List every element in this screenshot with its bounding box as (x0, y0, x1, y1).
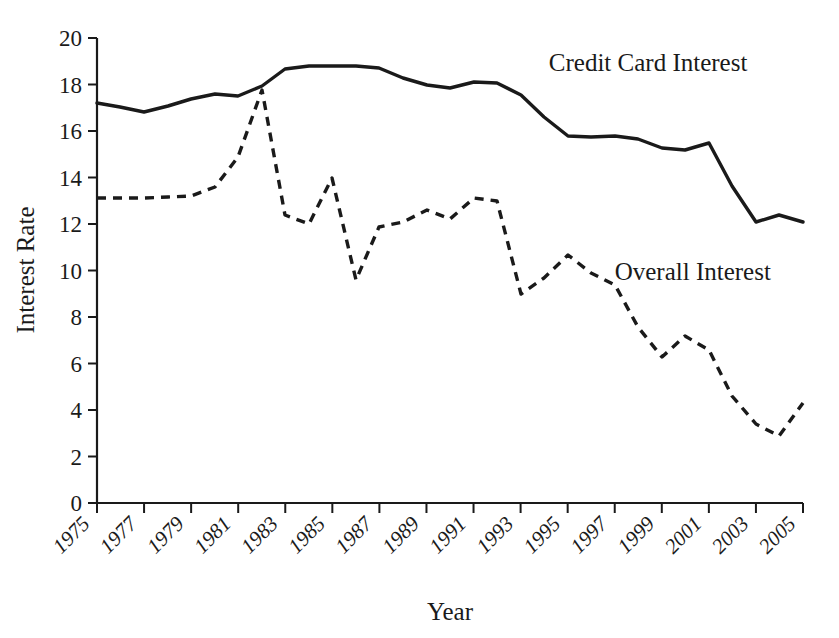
x-tick-label: 1999 (613, 511, 660, 558)
y-tick-label: 2 (71, 445, 83, 470)
x-tick-label: 1979 (142, 511, 189, 558)
x-tick-label: 1995 (519, 512, 566, 559)
x-tick-label: 1985 (283, 512, 330, 559)
x-tick-label: 1983 (236, 512, 283, 559)
x-tick-label: 1997 (566, 511, 614, 559)
y-axis-title: Interest Rate (12, 206, 39, 333)
x-axis-title: Year (427, 598, 474, 625)
y-tick-label: 12 (59, 212, 82, 237)
x-tick-label: 1993 (471, 512, 518, 559)
y-tick-label: 8 (71, 305, 83, 330)
series-label-overall-interest: Overall Interest (615, 258, 771, 285)
y-tick-label: 16 (59, 119, 82, 144)
x-tick-label: 1991 (424, 512, 471, 559)
y-tick-label: 20 (59, 26, 82, 51)
x-axis-ticks: 1975197719791981198319851987198919911993… (48, 503, 803, 558)
y-tick-label: 6 (71, 352, 83, 377)
x-tick-label: 2005 (754, 512, 801, 559)
interest-rate-chart: 02468101214161820 1975197719791981198319… (0, 0, 839, 638)
series-label-credit-card-interest: Credit Card Interest (549, 49, 748, 76)
x-tick-label: 1987 (330, 511, 378, 559)
y-axis-ticks: 02468101214161820 (59, 26, 97, 516)
x-tick-label: 1989 (377, 511, 424, 558)
y-tick-label: 14 (59, 166, 83, 191)
y-tick-label: 18 (59, 73, 82, 98)
x-tick-label: 2003 (707, 512, 754, 559)
x-tick-label: 1981 (189, 512, 236, 559)
x-tick-label: 2001 (660, 512, 707, 559)
x-tick-label: 1975 (48, 512, 95, 559)
y-tick-label: 4 (71, 398, 83, 423)
chart-canvas: 02468101214161820 1975197719791981198319… (0, 0, 839, 638)
y-tick-label: 10 (59, 259, 82, 284)
x-tick-label: 1977 (95, 511, 143, 559)
series-line-credit-card-interest (97, 66, 803, 222)
